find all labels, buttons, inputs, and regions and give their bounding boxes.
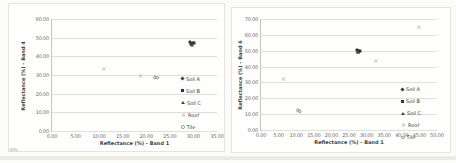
- x-tick-label: 20.00: [140, 133, 153, 139]
- data-point: ×: [281, 77, 286, 81]
- scatter-figure: 60.0050.0040.0030.0020.0010.000.000.005.…: [0, 0, 456, 163]
- diamond-marker-icon: [180, 77, 184, 81]
- gridline: [261, 67, 437, 68]
- diamond-marker-icon: [400, 87, 404, 91]
- plot-area: 60.0050.0040.0030.0020.0010.000.000.005.…: [51, 19, 217, 132]
- gridline: [261, 35, 437, 36]
- x-tick-label: 15.00: [116, 133, 129, 139]
- y-tick-label: 30.00: [36, 72, 49, 78]
- y-tick-label: 30.00: [245, 79, 258, 85]
- y-tick-label: 20.00: [245, 95, 258, 101]
- legend: Soil ASoil BSoil C×RoofTile: [401, 83, 435, 143]
- x-tick-label: 10.00: [92, 133, 105, 139]
- data-point: ×: [138, 74, 143, 78]
- data-point: [356, 51, 360, 54]
- x-axis-title: Reflectance (%) - Band 1: [314, 139, 383, 145]
- legend-label: Soil A: [406, 86, 420, 92]
- x-marker-icon: ×: [181, 113, 186, 117]
- y-tick-label: 60.00: [245, 32, 258, 38]
- triangle-marker-icon: [181, 101, 185, 104]
- square-marker-icon: [401, 100, 404, 103]
- x-tick-label: 30.00: [187, 133, 200, 139]
- y-tick-label: 40.00: [36, 53, 49, 59]
- gridline: [52, 19, 217, 20]
- y-tick-label: 70.00: [245, 16, 258, 22]
- x-tick-label: 5.00: [70, 133, 80, 139]
- legend-item: Soil A: [181, 73, 215, 85]
- scan-artifact: [0, 156, 456, 160]
- legend-item: Soil B: [401, 95, 435, 107]
- x-tick-label: 10.00: [290, 132, 303, 138]
- gridline: [261, 51, 437, 52]
- legend-item: Tile: [181, 121, 215, 133]
- y-axis-title: Reflectance (%) - Band 4: [20, 41, 26, 110]
- data-point: ×: [373, 59, 378, 63]
- x-tick-label: 25.00: [163, 133, 176, 139]
- legend-item: ×Roof: [181, 109, 215, 121]
- legend-item: Soil A: [401, 83, 435, 95]
- x-tick-label: 20.00: [325, 132, 338, 138]
- legend-item: Soil B: [181, 85, 215, 97]
- y-tick-label: 50.00: [245, 48, 258, 54]
- x-tick-label: 35.00: [210, 133, 223, 139]
- plot-area: 70.0060.0050.0040.0030.0020.0010.000.000…: [260, 19, 437, 131]
- chart-panel-band4: 60.0050.0040.0030.0020.0010.000.000.005.…: [8, 3, 225, 152]
- x-tick-label: 0.00: [256, 132, 266, 138]
- y-axis-title: Reflectance (%) - Band 6: [237, 40, 243, 109]
- legend-label: Tile: [187, 124, 196, 130]
- x-tick-label: 15.00: [307, 132, 320, 138]
- data-point: [190, 43, 194, 46]
- y-tick-label: 60.00: [36, 16, 49, 22]
- legend-label: Roof: [188, 112, 199, 118]
- data-point: ×: [416, 25, 421, 29]
- y-tick-label: 50.00: [36, 35, 49, 41]
- data-point: [298, 109, 302, 113]
- y-tick-label: 20.00: [36, 91, 49, 97]
- legend-item: Soil C: [181, 97, 215, 109]
- x-tick-label: 35.00: [378, 132, 391, 138]
- x-tick-label: 30.00: [360, 132, 373, 138]
- x-tick-label: 5.00: [273, 132, 283, 138]
- y-tick-label: 10.00: [245, 111, 258, 117]
- legend-item: ×Roof: [401, 119, 435, 131]
- legend-label: Roof: [408, 122, 419, 128]
- x-marker-icon: ×: [401, 123, 406, 127]
- x-tick-label: 25.00: [342, 132, 355, 138]
- legend-label: Soil C: [187, 100, 201, 106]
- legend: Soil ASoil BSoil C×RoofTile: [181, 73, 215, 133]
- gridline: [261, 19, 437, 20]
- legend-label: Tile: [407, 134, 416, 140]
- legend-label: Soil B: [406, 98, 420, 104]
- legend-label: Soil A: [186, 76, 200, 82]
- gridline: [52, 38, 217, 39]
- legend-label: Soil C: [407, 110, 421, 116]
- gridline: [52, 56, 217, 57]
- legend-item: Tile: [401, 131, 435, 143]
- data-point: [155, 76, 159, 80]
- y-tick-label: 40.00: [245, 64, 258, 70]
- x-tick-label: 0.00: [47, 133, 57, 139]
- x-axis-title: Reflectance (%) - Band 1: [100, 140, 169, 146]
- y-tick-label: 10.00: [36, 109, 49, 115]
- data-point: ×: [101, 67, 106, 71]
- chart-panel-band6: 70.0060.0050.0040.0030.0020.0010.000.000…: [231, 7, 451, 153]
- legend-item: Soil C: [401, 107, 435, 119]
- circle-marker-icon: [181, 125, 185, 129]
- legend-label: Soil B: [186, 88, 200, 94]
- square-marker-icon: [181, 89, 184, 92]
- circle-marker-icon: [401, 136, 405, 140]
- triangle-marker-icon: [401, 112, 405, 115]
